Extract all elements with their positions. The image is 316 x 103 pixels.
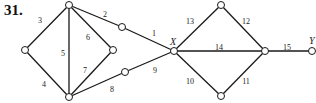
edge-label: 14: [215, 43, 223, 52]
node-n_inner: [110, 47, 117, 54]
edge-3: [25, 5, 69, 50]
graph-diagram: 123456789101112131415 XY: [0, 0, 316, 103]
node-n_rtop: [218, 2, 225, 9]
edge-7: [69, 50, 113, 97]
node-labels-group: XY: [169, 35, 316, 47]
edge-label: 13: [186, 17, 194, 26]
edge-12: [221, 5, 265, 51]
node-X: [171, 48, 178, 55]
node-n_bottom: [66, 94, 73, 101]
edge-1: [122, 27, 174, 51]
node-n_lower_mid: [122, 69, 129, 76]
edge-labels-group: 123456789101112131415: [38, 10, 291, 94]
edge-label: 3: [38, 16, 42, 25]
node-n_rbottom: [218, 93, 225, 100]
edge-label: 6: [86, 33, 90, 42]
edge-10: [174, 51, 221, 96]
node-Y: [309, 48, 316, 55]
edge-label: 9: [153, 66, 157, 75]
edge-label: 5: [61, 49, 65, 58]
node-n_right: [262, 48, 269, 55]
edge-label: 1: [152, 29, 156, 38]
edge-label: 8: [110, 85, 114, 94]
edge-label: 2: [103, 10, 107, 19]
edge-13: [174, 5, 221, 51]
edge-label: 15: [283, 43, 291, 52]
edge-9: [125, 51, 174, 72]
edge-label: 12: [242, 17, 250, 26]
node-n_top: [66, 2, 73, 9]
edge-11: [221, 51, 265, 96]
edge-label: 11: [242, 77, 250, 86]
edge-8: [69, 72, 125, 97]
edge-label: 10: [186, 77, 194, 86]
edge-label: 7: [83, 66, 87, 75]
node-n_upper_mid: [119, 24, 126, 31]
node-label-Y: Y: [309, 35, 316, 46]
edge-2: [69, 5, 122, 27]
edge-label: 4: [42, 80, 46, 89]
node-n_left: [22, 47, 29, 54]
node-label-X: X: [169, 36, 177, 47]
